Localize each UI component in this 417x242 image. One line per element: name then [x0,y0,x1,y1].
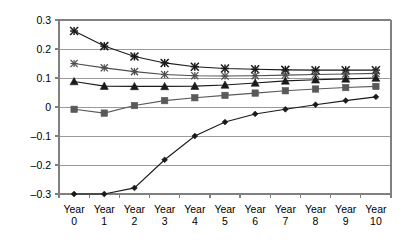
data-point-series-triangle-0 [70,77,78,84]
xtick-label-word-3: Year [150,203,180,215]
data-point-series-star-2 [130,53,138,61]
xtick-label-number-7: 7 [270,215,300,227]
xtick-label-2: Year2 [119,203,149,228]
series-line-series-star [74,31,376,70]
xtick-label-6: Year6 [240,203,270,228]
xtick-label-number-0: 0 [59,215,89,227]
data-point-series-cross-3 [161,71,168,78]
data-point-series-cross-0 [70,60,77,67]
xtick-label-7: Year7 [270,203,300,228]
data-point-series-square-3 [161,97,167,103]
ytick-label-2: 0.1 [0,73,51,84]
data-point-series-square-8 [312,86,318,92]
data-point-series-square-1 [101,110,107,116]
xtick-label-number-10: 10 [361,215,391,227]
data-point-series-diamond-9 [343,98,349,104]
xtick-label-word-4: Year [180,203,210,215]
xtick-label-word-0: Year [59,203,89,215]
xtick-label-word-9: Year [331,203,361,215]
data-point-series-diamond-6 [252,111,258,117]
xtick-label-word-8: Year [300,203,330,215]
data-point-series-star-4 [191,63,199,71]
series-line-series-diamond [74,97,376,194]
data-point-series-square-5 [222,92,228,98]
data-point-series-cross-2 [131,68,138,75]
data-point-series-square-6 [252,90,258,96]
series-line-series-square [74,86,376,113]
xtick-label-8: Year8 [300,203,330,228]
xtick-label-4: Year4 [180,203,210,228]
data-point-series-cross-6 [252,72,259,79]
data-point-series-cross-5 [221,72,228,79]
xtick-label-number-3: 3 [150,215,180,227]
data-point-series-diamond-10 [373,94,379,100]
xtick-label-number-5: 5 [210,215,240,227]
xtick-label-number-4: 4 [180,215,210,227]
data-point-series-star-5 [221,64,229,72]
xtick-label-word-1: Year [89,203,119,215]
xtick-label-number-9: 9 [331,215,361,227]
xtick-label-word-5: Year [210,203,240,215]
xtick-label-word-7: Year [270,203,300,215]
xtick-label-number-1: 1 [89,215,119,227]
xtick-label-5: Year5 [210,203,240,228]
data-point-series-square-7 [282,88,288,94]
xtick-label-number-6: 6 [240,215,270,227]
ytick-label-3: 0 [0,102,51,113]
data-point-series-star-0 [70,27,78,35]
ytick-label-0: 0.3 [0,15,51,26]
data-point-series-cross-1 [101,64,108,71]
xtick-label-0: Year0 [59,203,89,228]
data-point-series-cross-4 [191,72,198,79]
data-point-series-star-3 [161,59,169,67]
data-point-series-square-2 [131,102,137,108]
xtick-label-10: Year10 [361,203,391,228]
xtick-label-number-8: 8 [300,215,330,227]
data-point-series-diamond-1 [101,191,107,197]
data-point-series-square-10 [373,83,379,89]
line-chart: 0.30.20.10–0.1–0.2–0.3Year0Year1Year2Yea… [0,0,417,242]
data-point-series-diamond-0 [71,191,77,197]
xtick-label-9: Year9 [331,203,361,228]
ytick-label-4: –0.1 [0,131,51,142]
data-point-series-square-9 [343,84,349,90]
xtick-label-word-6: Year [240,203,270,215]
data-point-series-diamond-5 [222,119,228,125]
data-point-series-square-4 [192,95,198,101]
xtick-label-number-2: 2 [119,215,149,227]
xtick-label-word-10: Year [361,203,391,215]
data-point-series-star-1 [100,42,108,50]
data-point-series-square-0 [71,106,77,112]
xtick-label-1: Year1 [89,203,119,228]
ytick-label-1: 0.2 [0,44,51,55]
ytick-label-6: –0.3 [0,189,51,200]
xtick-label-3: Year3 [150,203,180,228]
xtick-label-word-2: Year [119,203,149,215]
ytick-label-5: –0.2 [0,160,51,171]
